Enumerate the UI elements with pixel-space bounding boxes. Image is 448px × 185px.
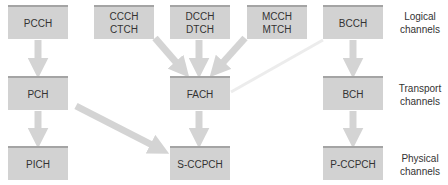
box-label-line1: DCCH	[186, 10, 215, 23]
arrow-pch-to-sccpch	[76, 106, 158, 148]
box-label-line1: CCCH	[110, 10, 139, 23]
box-label-line2: CTCH	[110, 23, 138, 36]
arrow-ccch-to-fach	[155, 38, 181, 68]
faint-line-bcch-to-fach	[231, 40, 323, 92]
box-label-line2: DTCH	[186, 23, 214, 36]
box-ccch-ctch: CCCH CTCH	[94, 5, 154, 39]
box-label: PICH	[26, 158, 50, 171]
box-label: PCCH	[24, 17, 52, 30]
box-label: FACH	[187, 88, 214, 101]
box-p-ccpch: P-CCPCH	[323, 146, 383, 180]
box-label: PCH	[27, 88, 48, 101]
channel-mapping-diagram: PCCH CCCH CTCH DCCH DTCH MCCH MTCH BCCH …	[0, 0, 448, 185]
box-pich: PICH	[8, 146, 68, 180]
box-label: BCCH	[339, 17, 367, 30]
box-dcch-dtch: DCCH DTCH	[170, 5, 230, 39]
box-bcch: BCCH	[323, 5, 383, 39]
box-label-line2: MTCH	[263, 23, 292, 36]
box-label: BCH	[342, 88, 363, 101]
box-label: S-CCPCH	[177, 158, 223, 171]
arrow-mcch-to-fach	[218, 38, 245, 68]
box-bch: BCH	[323, 76, 383, 110]
box-pch: PCH	[8, 76, 68, 110]
box-fach: FACH	[170, 76, 230, 110]
box-label: P-CCPCH	[330, 158, 376, 171]
box-s-ccpch: S-CCPCH	[170, 146, 230, 180]
box-mcch-mtch: MCCH MTCH	[247, 5, 307, 39]
box-label-line1: MCCH	[262, 10, 292, 23]
box-pcch: PCCH	[8, 5, 68, 39]
